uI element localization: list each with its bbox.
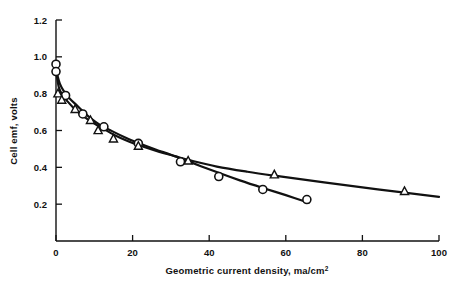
data-point-circle: [259, 185, 267, 193]
x-tick-label: 60: [281, 247, 292, 258]
y-tick-label: 0.2: [34, 199, 47, 210]
x-tick-label: 0: [53, 247, 58, 258]
x-axis-title: Geometric current density, ma/cm2: [165, 265, 328, 277]
data-point-circle: [79, 110, 87, 118]
x-tick-label: 80: [357, 247, 368, 258]
data-point-circle: [52, 68, 60, 76]
y-tick-label: 0.4: [34, 162, 48, 173]
data-point-circle: [303, 196, 311, 204]
data-point-circle: [100, 123, 108, 131]
x-tick-label: 20: [127, 247, 138, 258]
data-point-circle: [215, 173, 223, 181]
y-tick-label: 0.8: [34, 88, 47, 99]
chart-background: [0, 0, 453, 286]
y-tick-label: 1.2: [34, 15, 47, 26]
y-tick-label: 1.0: [34, 51, 47, 62]
y-axis-title: Cell emf, volts: [8, 97, 19, 164]
x-axis-title-exponent: 2: [325, 265, 329, 272]
y-tick-label: 0.6: [34, 125, 47, 136]
chart-figure: 0.20.40.60.81.01.2 020406080100 Geometri…: [0, 0, 453, 286]
x-tick-label: 40: [204, 247, 215, 258]
x-tick-label: 100: [431, 247, 447, 258]
chart-canvas: 0.20.40.60.81.01.2 020406080100 Geometri…: [0, 0, 453, 286]
x-axis-title-base: Geometric current density, ma/cm: [165, 265, 324, 276]
